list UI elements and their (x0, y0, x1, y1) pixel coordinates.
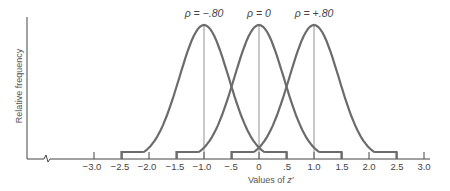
rho-label-zero: ρ = 0 (246, 7, 271, 19)
rho-label-negative: ρ = −.80 (184, 7, 224, 19)
tick-label: 0 (256, 161, 261, 172)
tick-label: −.5 (224, 161, 237, 172)
y-axis-title: Relative frequency (14, 48, 24, 123)
x-axis-title: Values of z′ (248, 175, 294, 185)
tick-label: 1.5 (335, 161, 348, 172)
tick-label: 2.5 (390, 161, 403, 172)
rho-label-positive: ρ = +.80 (294, 7, 334, 19)
tick-label: 2.0 (362, 161, 375, 172)
tick-label: −1.0 (193, 161, 212, 172)
tick-label: .5 (283, 161, 291, 172)
center-lines (204, 25, 314, 159)
tick-label: 3.0 (417, 161, 430, 172)
tick-label: −2.0 (138, 161, 157, 172)
sampling-distribution-chart: −3.0 −2.5 −2.0 −1.5 −1.0 −.5 0 .5 1.0 1.… (0, 0, 450, 191)
tick-label: −3.0 (83, 161, 102, 172)
axis-break-icon (44, 155, 50, 162)
x-tick-labels: −3.0 −2.5 −2.0 −1.5 −1.0 −.5 0 .5 1.0 1.… (83, 161, 431, 172)
x-axis-title-prefix: Values of (248, 175, 287, 185)
tick-label: 1.0 (307, 161, 320, 172)
x-axis-title-var: z′ (286, 175, 294, 185)
tick-label: −2.5 (111, 161, 130, 172)
tick-label: −1.5 (166, 161, 185, 172)
